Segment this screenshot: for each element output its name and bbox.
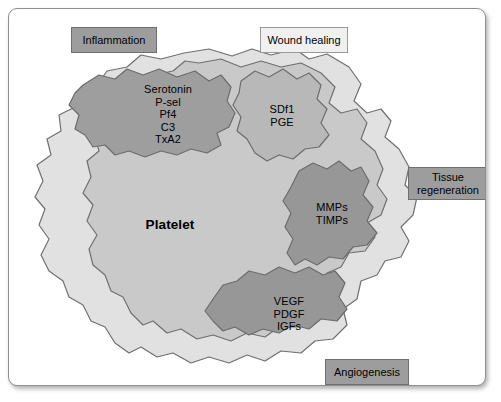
label-angiogenesis: Angiogenesis: [325, 359, 409, 385]
figure-stage: Platelet Serotonin P-sel Pf4 C3 TxA2 SDf…: [0, 0, 501, 402]
label-tissue-regeneration: Tissue regeneration: [408, 167, 486, 200]
figure-panel: Platelet Serotonin P-sel Pf4 C3 TxA2 SDf…: [8, 8, 486, 386]
label-inflammation: Inflammation: [71, 27, 157, 53]
label-wound-healing: Wound healing: [260, 27, 348, 53]
inflammation-granule-shape: [69, 69, 235, 157]
